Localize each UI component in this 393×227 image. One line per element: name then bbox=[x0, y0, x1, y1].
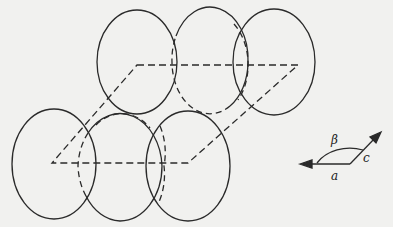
ellipse-bottom-middle bbox=[86, 114, 162, 221]
ellipse-top-right bbox=[233, 9, 315, 115]
axis-c-label: c bbox=[363, 151, 370, 165]
ellipse-bottom-middle-hidden bbox=[78, 133, 88, 196]
ellipse-bottom-middle-top-hidden bbox=[96, 114, 150, 128]
ellipse-top-middle bbox=[176, 7, 248, 106]
ellipse-top-middle-hidden bbox=[172, 36, 230, 114]
angle-beta-label: β bbox=[330, 133, 338, 147]
ellipse-bottom-right bbox=[146, 111, 230, 221]
axis-a-label: a bbox=[331, 169, 338, 183]
molecular-packing-diagram: a c β bbox=[0, 0, 393, 227]
ellipse-bottom-left bbox=[12, 109, 96, 219]
axis-a-arrowhead-icon bbox=[300, 160, 312, 168]
ellipse-top-left bbox=[97, 10, 177, 114]
ellipse-top-right-hidden-edge bbox=[234, 24, 248, 100]
angle-beta-arc bbox=[317, 148, 363, 163]
